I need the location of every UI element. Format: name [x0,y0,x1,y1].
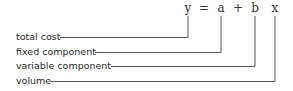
label-volume: volume [16,75,51,87]
label-variable-component: variable component [16,60,111,72]
label-total-cost: total cost [16,31,60,43]
connector-fixed-component [95,16,221,53]
label-fixed-component: fixed component [16,46,96,58]
connector-total-cost [60,16,188,38]
cost-equation-diagram: y = a + b x total cost fixed component v… [0,0,293,91]
connector-variable-component [111,16,255,67]
